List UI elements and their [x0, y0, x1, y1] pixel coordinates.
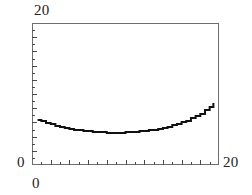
plot-area [32, 23, 219, 165]
data-curve [38, 103, 214, 133]
x-axis-max-label: 20 [223, 155, 238, 170]
x-axis-zero-label: 0 [32, 176, 40, 191]
chart-figure: 20 0 0 20 [0, 0, 252, 195]
y-axis-zero-label: 0 [17, 155, 25, 170]
x-axis-ticks [42, 160, 211, 165]
y-axis-max-label: 20 [34, 3, 49, 18]
y-axis-ticks [32, 31, 37, 159]
